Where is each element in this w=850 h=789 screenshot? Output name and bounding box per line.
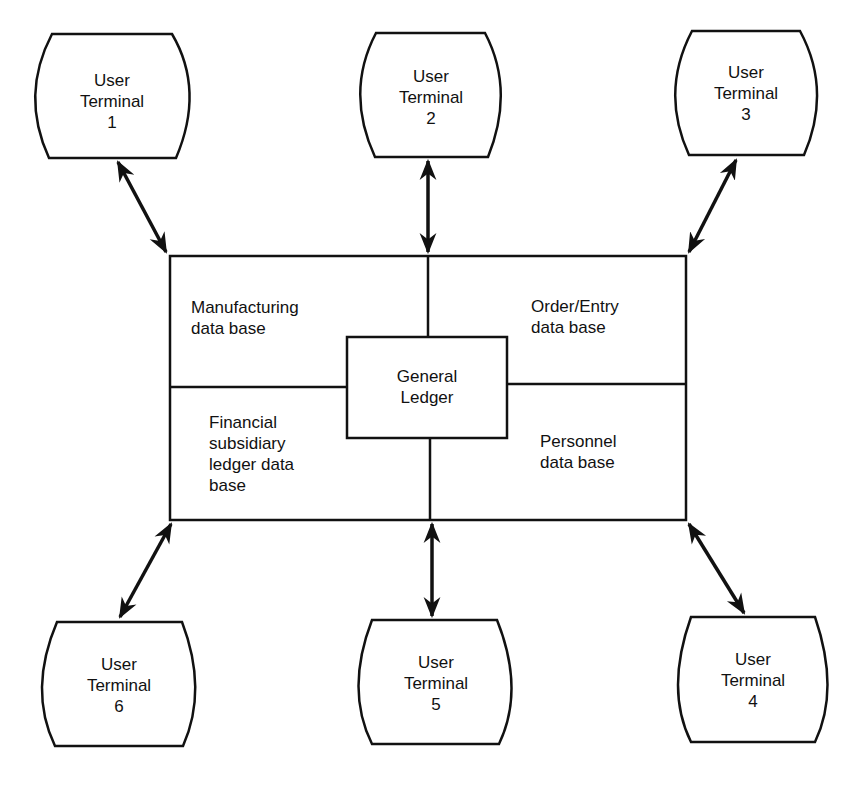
financial-db-line3: ledger data (209, 454, 294, 475)
terminal-4-line1: User (693, 649, 813, 670)
terminal-3-label: User Terminal 3 (686, 62, 806, 125)
general-ledger-line1: General (362, 366, 492, 387)
terminal-5-line1: User (376, 652, 496, 673)
terminal-2-label: User Terminal 2 (371, 66, 491, 129)
personnel-db-label: Personnel data base (540, 431, 617, 473)
arrow-terminal-6 (120, 524, 171, 617)
order-entry-db-line2: data base (531, 317, 619, 338)
order-entry-db-line1: Order/Entry (531, 296, 619, 317)
terminal-5-number: 5 (376, 694, 496, 715)
arrow-terminal-3 (689, 160, 736, 252)
terminal-5-label: User Terminal 5 (376, 652, 496, 715)
terminal-4-line2: Terminal (693, 670, 813, 691)
terminal-3-line2: Terminal (686, 83, 806, 104)
financial-db-line2: subsidiary (209, 433, 294, 454)
financial-db-line4: base (209, 475, 294, 496)
terminal-1-line1: User (52, 70, 172, 91)
manufacturing-db-line1: Manufacturing (191, 297, 299, 318)
arrow-terminal-4 (689, 524, 744, 613)
terminal-2-line1: User (371, 66, 491, 87)
manufacturing-db-label: Manufacturing data base (191, 297, 299, 339)
terminal-1-label: User Terminal 1 (52, 70, 172, 133)
terminal-3-number: 3 (686, 104, 806, 125)
terminal-1-number: 1 (52, 112, 172, 133)
order-entry-db-label: Order/Entry data base (531, 296, 619, 338)
terminal-6-line2: Terminal (59, 675, 179, 696)
terminal-6-label: User Terminal 6 (59, 654, 179, 717)
financial-db-line1: Financial (209, 412, 294, 433)
general-ledger-label: General Ledger (362, 366, 492, 408)
arrow-terminal-1 (118, 162, 166, 252)
personnel-db-line2: data base (540, 452, 617, 473)
terminal-6-line1: User (59, 654, 179, 675)
terminal-2-number: 2 (371, 108, 491, 129)
terminal-3-line1: User (686, 62, 806, 83)
personnel-db-line1: Personnel (540, 431, 617, 452)
terminal-6-number: 6 (59, 696, 179, 717)
manufacturing-db-line2: data base (191, 318, 299, 339)
terminal-1-line2: Terminal (52, 91, 172, 112)
terminal-2-line2: Terminal (371, 87, 491, 108)
general-ledger-line2: Ledger (362, 387, 492, 408)
terminal-5-line2: Terminal (376, 673, 496, 694)
financial-db-label: Financial subsidiary ledger data base (209, 412, 294, 496)
terminal-4-label: User Terminal 4 (693, 649, 813, 712)
terminal-4-number: 4 (693, 691, 813, 712)
